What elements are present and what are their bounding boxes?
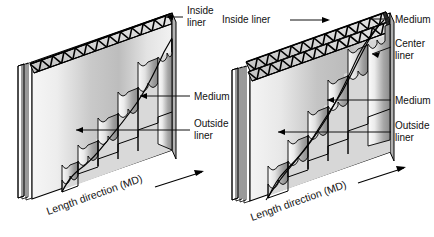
label-outside-liner-line1: Outside xyxy=(194,118,229,129)
right-edge-thickness xyxy=(172,13,176,159)
left-edge-liner-stack xyxy=(18,62,32,200)
label-medium-top: Medium xyxy=(395,14,431,25)
singlewall-corrugated-board: Inside liner Medium Outside liner Length… xyxy=(18,5,230,217)
right-edge-thickness-2 xyxy=(390,13,394,161)
machine-direction-arrow xyxy=(155,170,204,187)
figure-root: Inside liner Medium Outside liner Length… xyxy=(0,0,434,237)
label-inside-liner-2: Inside liner xyxy=(222,14,271,25)
label-center-liner-line1: Center xyxy=(395,38,426,49)
label-outside-liner-line2: liner xyxy=(194,130,214,141)
doublewall-corrugated-board: Inside liner Medium Center liner Medium … xyxy=(222,12,431,223)
machine-direction-arrow-2 xyxy=(358,166,406,183)
label-medium-bottom: Medium xyxy=(395,95,431,106)
label-center-liner-line2: liner xyxy=(395,50,415,61)
corrugated-board-figure: Inside liner Medium Outside liner Length… xyxy=(0,0,434,237)
label-outside-liner-2-line2: liner xyxy=(395,132,415,143)
label-inside-liner-line1: Inside xyxy=(187,5,214,16)
label-medium: Medium xyxy=(194,91,230,102)
label-inside-liner-line2: liner xyxy=(187,17,207,28)
label-outside-liner-2-line1: Outside xyxy=(395,120,430,131)
left-edge-liner-stack-2 xyxy=(232,65,250,203)
